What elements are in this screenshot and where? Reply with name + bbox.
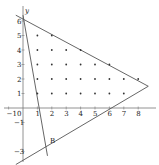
y-tick-label: 6 — [17, 18, 22, 26]
lattice-point — [51, 78, 53, 80]
lattice-point — [37, 78, 39, 80]
lattice-point — [94, 78, 96, 80]
x-tick-label: 8 — [136, 110, 140, 118]
lattice-point — [51, 64, 53, 66]
y-tick-label: 2 — [17, 76, 21, 84]
x-tick-label: 3 — [64, 110, 68, 118]
upper-line — [16, 15, 148, 86]
lattice-point — [109, 64, 111, 66]
lattice-point — [65, 49, 67, 51]
lattice-point — [109, 93, 111, 95]
lattice-point — [80, 78, 82, 80]
lattice-point — [51, 35, 53, 37]
lattice-point — [80, 64, 82, 66]
lattice-point — [37, 93, 39, 95]
lattice-point — [80, 49, 82, 51]
lower-line — [16, 86, 148, 164]
coordinate-diagram: −1012345678654321−1−3 y B — [0, 0, 159, 165]
diagram-canvas: −1012345678654321−1−3 y B — [0, 0, 159, 165]
y-axis-label: y — [24, 7, 30, 15]
x-tick-label: 0 — [17, 110, 21, 118]
y-tick-label: 5 — [17, 32, 21, 40]
lattice-point — [51, 93, 53, 95]
lattice-point — [37, 64, 39, 66]
axes — [4, 6, 156, 162]
lattice-point — [65, 78, 67, 80]
x-tick-label: 5 — [93, 110, 97, 118]
lattice-point — [65, 93, 67, 95]
lattice-point — [37, 35, 39, 37]
x-tick-label: 1 — [35, 110, 39, 118]
x-tick-label: 7 — [122, 110, 126, 118]
y-tick-label: −3 — [14, 148, 24, 156]
x-tick-label: 2 — [50, 110, 54, 118]
lattice-points — [37, 35, 140, 95]
lattice-point — [37, 49, 39, 51]
lattice-point — [94, 93, 96, 95]
y-tick-label: 3 — [17, 61, 21, 69]
y-tick-label: 1 — [17, 90, 21, 98]
lattice-point — [123, 93, 125, 95]
lattice-point — [137, 78, 139, 80]
steep-line — [23, 15, 47, 156]
lattice-point — [51, 49, 53, 51]
y-tick-label: 4 — [17, 47, 22, 55]
x-tick-label: −1 — [7, 110, 17, 118]
point-b-label: B — [50, 137, 55, 145]
x-tick-label: 6 — [107, 110, 112, 118]
triangle-lines — [16, 15, 148, 164]
lattice-point — [109, 78, 111, 80]
y-tick-label: −1 — [14, 119, 24, 127]
lattice-point — [65, 64, 67, 66]
lattice-point — [123, 78, 125, 80]
x-tick-label: 4 — [79, 110, 84, 118]
lattice-point — [80, 93, 82, 95]
lattice-point — [94, 64, 96, 66]
